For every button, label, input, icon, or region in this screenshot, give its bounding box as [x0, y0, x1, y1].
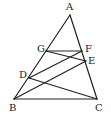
label-F: F [85, 43, 92, 54]
segment-DC [29, 78, 97, 99]
label-C: C [95, 102, 103, 113]
geometry-diagram: A G F E D B C [0, 0, 111, 120]
label-G: G [37, 43, 45, 54]
label-A: A [65, 1, 74, 12]
label-D: D [19, 69, 27, 80]
label-E: E [88, 55, 95, 66]
triangle-figure: A G F E D B C [0, 0, 111, 120]
label-B: B [9, 102, 16, 113]
segment-AB [14, 15, 70, 99]
